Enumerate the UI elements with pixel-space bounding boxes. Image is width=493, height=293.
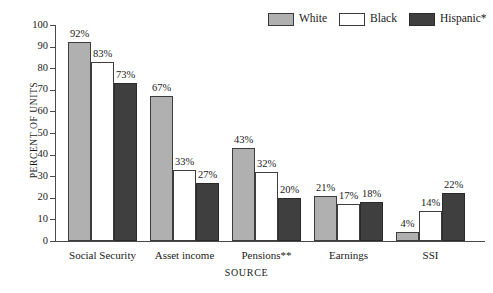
y-axis-tick-label: 100 <box>0 20 48 31</box>
plot-area: 92%83%73%67%33%27%43%32%20%21%17%18%4%14… <box>55 25 485 241</box>
bar <box>68 42 91 241</box>
bar <box>419 211 442 241</box>
bar-value-label: 20% <box>272 185 307 196</box>
bar-value-label: 33% <box>167 157 202 168</box>
x-axis-title: SOURCE <box>0 267 493 278</box>
bar <box>91 62 114 241</box>
legend-label-hispanic: Hispanic* <box>440 13 487 25</box>
bar-value-label: 22% <box>436 180 471 191</box>
y-axis-tick-label: 70 <box>0 84 48 95</box>
bar <box>314 196 337 241</box>
legend-item-black: Black <box>339 13 397 26</box>
y-axis-tick-label: 10 <box>0 214 48 225</box>
y-axis-tick-label-text: 100 <box>2 20 48 31</box>
bar <box>337 204 360 241</box>
bar <box>114 83 137 241</box>
bar <box>442 193 465 241</box>
y-axis-tick-label: 40 <box>0 149 48 160</box>
bar <box>360 202 383 241</box>
y-axis-tick-label-text: 90 <box>2 41 48 52</box>
y-axis-tick-label-text: 30 <box>2 171 48 182</box>
bar-value-label: 67% <box>144 83 179 94</box>
y-axis-tick-label-text: 70 <box>2 84 48 95</box>
bar-chart: White Black Hispanic* PERCENT OF UNITS 1… <box>0 0 493 293</box>
bar <box>150 96 173 241</box>
y-axis-tick-label: 90 <box>0 41 48 52</box>
bar-value-label: 43% <box>226 135 261 146</box>
y-axis-tick-label-text: 50 <box>2 128 48 139</box>
legend-swatch-hispanic <box>409 13 435 26</box>
bar-value-label: 73% <box>108 70 143 81</box>
y-axis-tick-label-text: 0 <box>2 236 48 247</box>
legend-item-white: White <box>268 13 327 26</box>
y-axis-tick-label-text: 20 <box>2 192 48 203</box>
legend-item-hispanic: Hispanic* <box>409 13 487 26</box>
legend-label-white: White <box>299 13 327 25</box>
bar <box>173 170 196 241</box>
y-axis-tick-label-text: 80 <box>2 63 48 74</box>
y-axis-tick-label-text: 60 <box>2 106 48 117</box>
bar-value-label: 92% <box>62 29 97 40</box>
y-axis-tick-label: 60 <box>0 106 48 117</box>
bar <box>196 183 219 241</box>
y-axis-tick-label-text: 10 <box>2 214 48 225</box>
y-axis-tick-label: 50 <box>0 128 48 139</box>
bar-value-label: 83% <box>85 49 120 60</box>
bar <box>396 232 419 241</box>
x-axis-category-label: SSI <box>376 250 486 261</box>
y-axis-tick-label: 20 <box>0 192 48 203</box>
x-axis-line <box>55 241 485 242</box>
y-axis-tick-label: 0 <box>0 236 48 247</box>
bar-value-label: 18% <box>354 189 389 200</box>
y-axis-tick-label: 80 <box>0 63 48 74</box>
legend-label-black: Black <box>370 13 397 25</box>
legend-swatch-black <box>339 13 365 26</box>
bar <box>278 198 301 241</box>
bar <box>255 172 278 241</box>
bar-value-label: 27% <box>190 170 225 181</box>
y-axis-tick-label: 30 <box>0 171 48 182</box>
bar-value-label: 32% <box>249 159 284 170</box>
legend-swatch-white <box>268 13 294 26</box>
y-axis-tick-label-text: 40 <box>2 149 48 160</box>
